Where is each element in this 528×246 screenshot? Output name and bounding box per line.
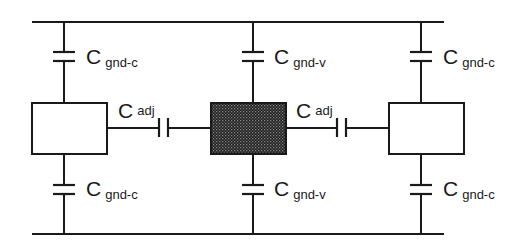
- left-bottom-capacitor: [53, 154, 75, 234]
- label-bottom-left-cgnd-c: Cgnd-c: [86, 178, 138, 199]
- right-top-capacitor: [410, 22, 432, 103]
- center-bottom-capacitor: [242, 154, 264, 234]
- left-top-capacitor: [53, 22, 75, 103]
- label-left-cadj: Cadj: [118, 100, 155, 121]
- label-right-cadj: Cadj: [296, 100, 333, 121]
- label-top-right-cgnd-c: Cgnd-c: [443, 46, 495, 67]
- label-top-left-cgnd-c: Cgnd-c: [86, 46, 138, 67]
- victim-conductor: [211, 103, 286, 154]
- label-bottom-right-cgnd-c: Cgnd-c: [443, 178, 495, 199]
- label-top-center-cgnd-v: Cgnd-v: [274, 46, 326, 67]
- circuit-diagram: [0, 0, 528, 246]
- label-bottom-center-cgnd-v: Cgnd-v: [274, 178, 326, 199]
- center-top-capacitor: [242, 22, 264, 103]
- right-conductor: [389, 103, 464, 154]
- left-conductor: [32, 103, 107, 154]
- right-bottom-capacitor: [410, 154, 432, 234]
